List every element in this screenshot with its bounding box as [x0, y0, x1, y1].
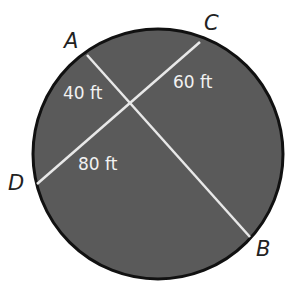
segment-label-de: 80 ft: [78, 154, 118, 174]
chord-diagram: A B C D 40 ft 60 ft 80 ft: [0, 0, 299, 290]
point-label-a: A: [62, 29, 78, 53]
point-label-b: B: [256, 237, 270, 261]
segment-label-ce: 60 ft: [173, 72, 213, 92]
segment-label-ae: 40 ft: [63, 83, 103, 103]
point-label-d: D: [8, 171, 24, 195]
point-label-c: C: [204, 11, 219, 35]
